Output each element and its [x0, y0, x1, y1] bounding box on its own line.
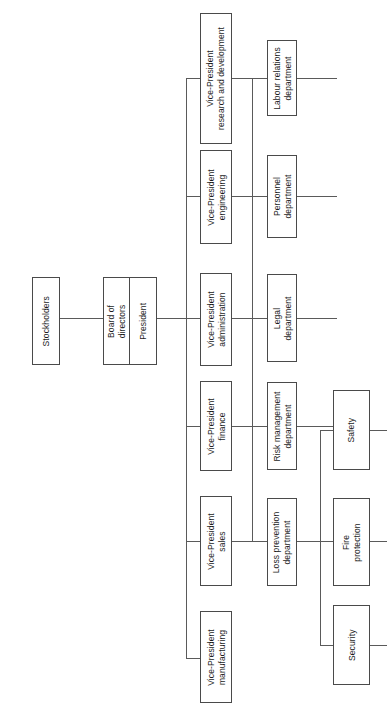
connector-safetybus-fire-protection: [320, 541, 333, 542]
connector-finance-out: [232, 426, 253, 427]
connector-vpbus-administration: [186, 318, 200, 319]
node-label: Loss prevention department: [272, 511, 293, 573]
connector-vpbus-sales: [186, 541, 200, 542]
connector-risk-management-out: [297, 426, 337, 427]
connector-stockholders-board: [60, 318, 103, 319]
node-safety[interactable]: Safety: [333, 390, 370, 470]
node-label: Board of directors: [107, 304, 128, 338]
node-label: Vice-President manufacturing: [206, 629, 227, 686]
node-label: Vice-President finance: [206, 398, 227, 455]
connector-deptbus-risk-management: [252, 426, 268, 427]
connector-research-development-out: [232, 78, 253, 79]
org-chart: Stockholders Board of directors Presiden…: [0, 0, 390, 706]
connector-deptbus-loss-prevention: [252, 541, 268, 542]
node-label: Personnel department: [272, 175, 293, 219]
node-vp-finance[interactable]: Vice-President finance: [200, 381, 232, 471]
connector-vpbus-finance: [186, 426, 200, 427]
connector-labour-relations-out: [297, 78, 337, 79]
connector-vpbus-manufacturing: [186, 658, 200, 659]
connector-president-vpbus: [157, 318, 187, 319]
connector-engineering-out: [232, 196, 253, 197]
node-security[interactable]: Security: [333, 605, 370, 685]
node-stockholders[interactable]: Stockholders: [32, 277, 60, 365]
node-vp-administration[interactable]: Vice-President administration: [200, 273, 232, 366]
node-label: Fire protection: [341, 523, 362, 561]
node-label: Labour relations department: [272, 47, 293, 110]
connector-department-bus: [252, 78, 253, 541]
node-vp-sales[interactable]: Vice-President sales: [200, 496, 232, 586]
connector-fire-protection-out: [370, 541, 387, 542]
connector-safetybus-safety: [320, 430, 333, 431]
connector-safetybus-security: [320, 645, 333, 646]
connector-deptbus-personnel: [252, 196, 268, 197]
node-vp-research-development[interactable]: Vice-President research and development: [200, 13, 232, 144]
node-label: Vice-President administration: [206, 291, 227, 348]
node-labour-relations-department[interactable]: Labour relations department: [267, 40, 297, 116]
node-loss-prevention-department[interactable]: Loss prevention department: [267, 498, 297, 586]
node-label: Risk management department: [272, 391, 293, 461]
node-label: Vice-President engineering: [206, 169, 227, 226]
connector-safety-bus: [320, 430, 321, 645]
node-label: Safety: [346, 418, 357, 443]
node-personnel-department[interactable]: Personnel department: [267, 155, 297, 238]
connector-vpbus-engineering: [186, 196, 200, 197]
node-label: Stockholders: [41, 296, 52, 346]
node-label: Security: [346, 629, 357, 661]
node-label: Vice-President sales: [206, 513, 227, 570]
connector-personnel-out: [297, 196, 337, 197]
connector-vp-bus: [186, 78, 187, 658]
node-fire-protection[interactable]: Fire protection: [333, 498, 370, 586]
node-label: Legal department: [272, 296, 293, 340]
node-vp-engineering[interactable]: Vice-President engineering: [200, 150, 232, 244]
connector-loss-prevention-out: [297, 541, 320, 542]
connector-vpbus-research-development: [186, 78, 200, 79]
connector-sales-out: [232, 541, 253, 542]
node-risk-management-department[interactable]: Risk management department: [267, 382, 297, 470]
connector-administration-out: [232, 318, 267, 319]
connector-legal-out: [297, 318, 337, 319]
node-vp-manufacturing[interactable]: Vice-President manufacturing: [200, 611, 232, 703]
connector-security-out: [370, 645, 387, 646]
connector-deptbus-labour-relations: [252, 78, 268, 79]
node-board-of-directors[interactable]: Board of directors: [103, 277, 131, 365]
node-label: President: [138, 303, 149, 340]
connector-safety-out: [370, 430, 387, 431]
node-label: Vice-President research and development: [206, 27, 227, 130]
node-president[interactable]: President: [129, 277, 157, 365]
node-legal-department[interactable]: Legal department: [267, 274, 297, 362]
